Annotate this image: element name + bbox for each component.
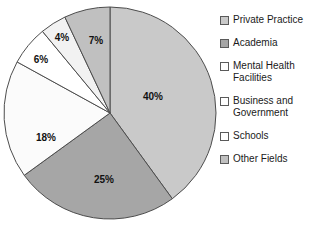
legend-swatch-icon xyxy=(220,97,229,106)
legend-swatch-icon xyxy=(220,39,229,48)
legend-swatch-icon xyxy=(220,132,229,141)
legend-item[interactable]: Other Fields xyxy=(220,153,318,165)
legend-item[interactable]: Private Practice xyxy=(220,14,318,26)
legend-item-label: Other Fields xyxy=(233,153,287,165)
pie-slice-label: 25% xyxy=(94,174,114,185)
pie-chart-area: 40%25%18%6%4%7% xyxy=(0,0,220,226)
chart-legend: Private PracticeAcademiaMental Health Fa… xyxy=(220,14,318,176)
pie-slice-label: 40% xyxy=(143,91,163,102)
legend-swatch-icon xyxy=(220,16,229,25)
pie-chart-figure: 40%25%18%6%4%7% Private PracticeAcademia… xyxy=(0,0,318,226)
pie-slice-label: 6% xyxy=(34,54,49,65)
legend-item[interactable]: Academia xyxy=(220,37,318,49)
legend-item[interactable]: Schools xyxy=(220,130,318,142)
pie-slice-label: 18% xyxy=(36,132,56,143)
legend-item-label: Mental Health Facilities xyxy=(233,60,295,84)
legend-item[interactable]: Business and Government xyxy=(220,95,318,119)
legend-swatch-icon xyxy=(220,155,229,164)
pie-slice-label: 4% xyxy=(55,32,70,43)
pie-chart-svg: 40%25%18%6%4%7% xyxy=(0,0,220,226)
pie-slice-label: 7% xyxy=(89,35,104,46)
legend-item[interactable]: Mental Health Facilities xyxy=(220,60,318,84)
pie-slices-group xyxy=(4,7,216,219)
legend-item-label: Business and Government xyxy=(233,95,293,119)
legend-item-label: Academia xyxy=(233,37,277,49)
legend-item-label: Private Practice xyxy=(233,14,303,26)
legend-swatch-icon xyxy=(220,62,229,71)
legend-item-label: Schools xyxy=(233,130,269,142)
